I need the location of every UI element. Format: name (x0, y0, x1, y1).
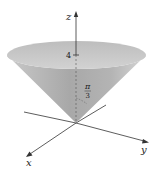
z-axis-arrow (74, 11, 78, 17)
y-axis-arrow (142, 139, 149, 144)
angle-denominator: 3 (86, 92, 90, 100)
y-axis (76, 123, 144, 141)
y-axis-label: y (140, 144, 147, 155)
z-axis-label: z (65, 11, 72, 22)
angle-numerator: π (84, 82, 91, 91)
cone-diagram: z x y 4 π 3 (0, 0, 155, 170)
x-axis (30, 123, 76, 154)
x-axis-label: x (26, 157, 32, 168)
height-label: 4 (66, 51, 71, 60)
